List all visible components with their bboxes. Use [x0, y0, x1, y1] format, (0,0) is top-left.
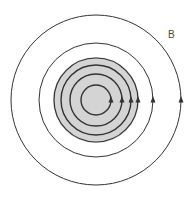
direction-arrow-icon — [151, 96, 156, 103]
magnetic-field-diagram: B — [0, 0, 191, 198]
direction-arrow-icon — [179, 96, 184, 103]
field-label-b: B — [168, 29, 175, 40]
